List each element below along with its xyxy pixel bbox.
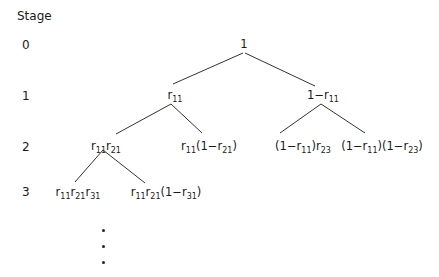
node-r11r21r31: r11r21r31: [56, 185, 101, 199]
continuation-dot: [102, 261, 105, 264]
edge-1minusr11-left: [280, 104, 321, 133]
edge-r11r21-1minusr31: [103, 150, 145, 183]
edge-1minusr11-right: [321, 104, 365, 133]
node-r11r21: r11r21: [91, 139, 121, 153]
node-root: 1: [240, 37, 247, 51]
node-1minus-r11-1minus-r23: (1−r11)(1−r23): [341, 139, 423, 153]
edge-root-r11: [173, 53, 243, 84]
node-1-minus-r11: 1−r11: [307, 88, 339, 102]
node-r11-1minus-r21: r11(1−r21): [181, 139, 237, 153]
edge-r11-r11r21: [116, 104, 171, 134]
continuation-dot: [102, 245, 105, 248]
continuation-dot: [102, 229, 105, 232]
edge-root-1minusr11: [245, 53, 315, 86]
node-r11: r11: [168, 88, 183, 102]
node-1minus-r11-r23: (1−r11)r23: [275, 139, 331, 153]
node-r11r21-1minus-r31: r11r21(1−r31): [131, 185, 202, 199]
edge-r11-r11onesub: [171, 104, 202, 133]
